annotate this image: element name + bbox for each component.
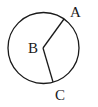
geometry-diagram: A B C bbox=[0, 0, 98, 107]
radius-ba bbox=[43, 19, 64, 48]
radius-bc bbox=[43, 48, 53, 82]
label-b: B bbox=[28, 40, 38, 56]
label-a: A bbox=[70, 4, 81, 20]
label-c: C bbox=[55, 87, 65, 103]
